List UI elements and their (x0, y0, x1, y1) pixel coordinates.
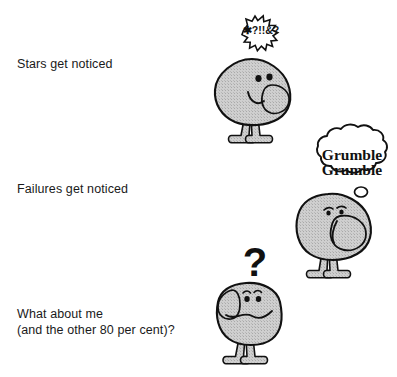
thought-cloud-balloon: Grumble Grumble (317, 125, 387, 197)
character-star: ✱?!!&? (215, 16, 290, 143)
cartoon-illustration: ✱?!!&? Grumble Grumble (0, 0, 397, 377)
right-eye (339, 209, 343, 214)
left-eye (244, 296, 249, 302)
thought-trail-bubble (355, 187, 368, 197)
cartoon-canvas: Stars get noticed Failures get noticed W… (0, 0, 397, 377)
starburst-text: ✱?!!&? (243, 24, 279, 36)
character-average: ? (217, 240, 282, 364)
left-eye (255, 75, 261, 82)
left-eye (326, 210, 330, 215)
right-eye (266, 74, 272, 81)
character-failure: Grumble Grumble (297, 125, 388, 278)
star-character-cheek (262, 85, 289, 113)
failure-character-jowl (331, 216, 366, 251)
right-eye (256, 296, 261, 302)
question-mark-balloon: ? (243, 240, 267, 284)
thought-cloud-line-2: Grumble (322, 161, 382, 178)
starburst-balloon: ✱?!!&? (242, 16, 279, 51)
